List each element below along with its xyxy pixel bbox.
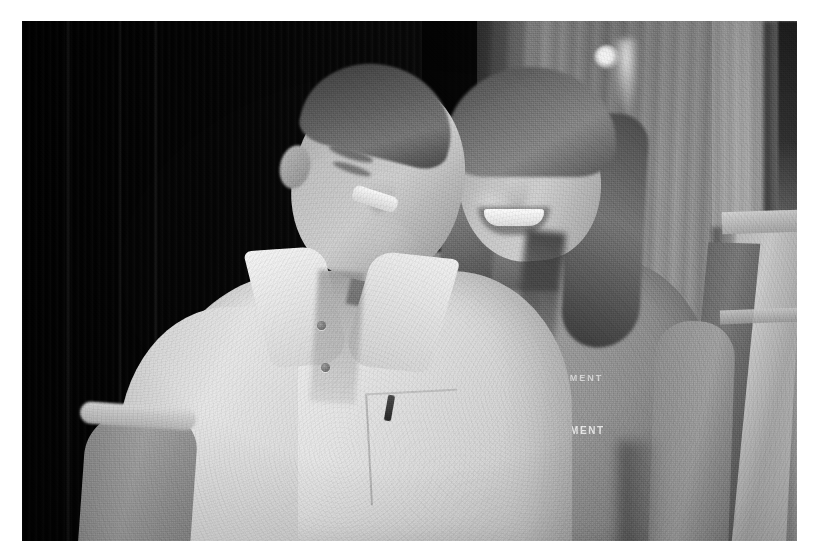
light-glow: [614, 39, 638, 109]
page-canvas: ENTERTAINMENT and ENTERTAINMENT: [0, 0, 827, 559]
man-shirt-placket: [309, 270, 364, 405]
photograph: ENTERTAINMENT and ENTERTAINMENT: [22, 21, 797, 541]
man-shirt-button-bottom: [321, 363, 330, 372]
woman-teeth: [484, 209, 544, 226]
woman-arm-shadow: [618, 441, 664, 541]
chair-upper-shadow: [778, 21, 797, 221]
chair-top-rail: [722, 210, 797, 235]
woman-nose: [506, 173, 528, 207]
chair-middle-rail: [720, 308, 797, 325]
man-shirt-pocket: [365, 389, 463, 506]
man-shirt-button-top: [317, 321, 326, 330]
